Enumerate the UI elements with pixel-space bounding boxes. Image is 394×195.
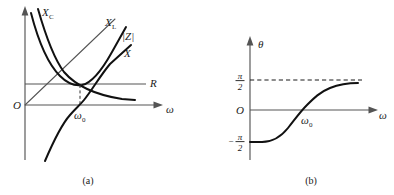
panel-a-label-r: R [149, 77, 157, 89]
panel-a-omega0-text: ω [74, 109, 82, 121]
panel-b-caption: (b) [305, 175, 317, 187]
panel-a-label-x: X [123, 47, 132, 59]
panel-b-y-axis-label: θ [258, 38, 264, 50]
figure-svg: X C X L |Z| X R O ω 0 ω (a) [0, 0, 394, 195]
panel-a-x-axis-arrowhead [154, 102, 164, 109]
panel-b-omega0-label: ω 0 [301, 114, 313, 129]
panel-b-x-axis-label: ω [379, 109, 387, 121]
panel-a-omega0-subscript: 0 [82, 116, 86, 124]
panel-a-y-axis-arrowhead [22, 6, 29, 16]
panel-a-label-z: |Z| [122, 30, 134, 42]
panel-a-label-xc: X C [41, 6, 54, 21]
panel-b-omega0-text: ω [301, 114, 309, 126]
panel-b-ytick-neg-pi-over-2: − π 2 [228, 132, 245, 153]
panel-b-ytick-pi-over-2: π 2 [236, 71, 245, 92]
panel-a: X C X L |Z| X R O ω 0 ω (a) [13, 6, 174, 187]
panel-b-ytick-neg-pi-over-2-sign: − [228, 136, 234, 146]
panel-a-omega0-label: ω 0 [74, 109, 86, 124]
panel-b: π 2 − π 2 O θ ω 0 ω (b) [228, 36, 387, 187]
panel-b-y-axis-arrowhead [247, 36, 254, 46]
panel-b-omega0-subscript: 0 [309, 121, 313, 129]
panel-b-ytick-neg-pi-over-2-denominator: 2 [238, 143, 243, 153]
panel-b-curve-theta [250, 83, 358, 142]
panel-a-curve-xl [25, 19, 115, 105]
figure-container: X C X L |Z| X R O ω 0 ω (a) [0, 0, 394, 195]
panel-b-ytick-pi-over-2-denominator: 2 [238, 82, 243, 92]
panel-b-x-axis-arrowhead [369, 107, 379, 114]
panel-a-label-xc-subscript: C [49, 13, 54, 21]
panel-a-origin-label: O [13, 99, 21, 111]
panel-a-label-xl-subscript: L [112, 23, 116, 31]
panel-b-ytick-pi-over-2-numerator: π [238, 71, 243, 81]
panel-b-origin-label: O [236, 104, 244, 116]
panel-b-ytick-neg-pi-over-2-numerator: π [238, 132, 243, 142]
panel-a-caption: (a) [82, 175, 93, 187]
panel-a-x-axis-label: ω [166, 103, 174, 115]
